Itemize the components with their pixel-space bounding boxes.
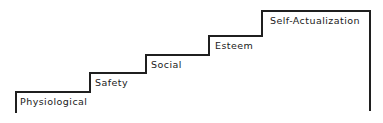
maslow-staircase-diagram: Physiological Safety Social Esteem Self-… [0,0,383,123]
step-label-social: Social [151,60,182,70]
step-label-physiological: Physiological [20,97,87,107]
step-label-safety: Safety [95,78,128,88]
step-label-esteem: Esteem [215,41,253,51]
step-label-self-actualization: Self-Actualization [270,16,360,26]
